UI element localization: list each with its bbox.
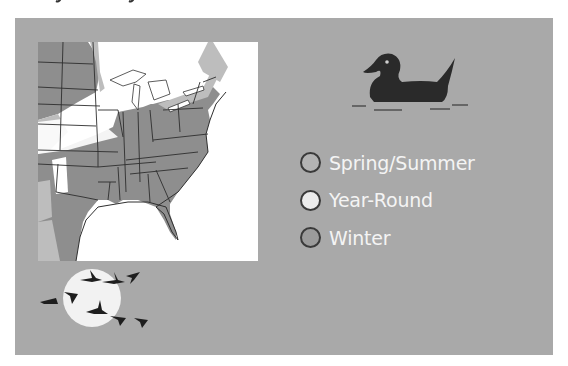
legend-label: Winter — [329, 227, 390, 249]
winter-swatch-icon — [300, 227, 321, 248]
legend-label: Spring/Summer — [329, 152, 475, 174]
range-map — [38, 42, 258, 261]
legend: Spring/Summer Year-Round Winter — [300, 144, 475, 257]
legend-item-year-round: Year-Round — [300, 182, 475, 220]
legend-label: Year-Round — [329, 189, 433, 211]
year-round-swatch-icon — [300, 190, 321, 211]
eastern-us-map — [38, 42, 258, 261]
spring-summer-swatch-icon — [300, 152, 321, 173]
legend-item-spring-summer: Spring/Summer — [300, 144, 475, 182]
cropped-title-fragment — [0, 0, 568, 6]
duck-silhouette-icon — [352, 50, 472, 120]
range-map-panel: Spring/Summer Year-Round Winter — [15, 18, 553, 355]
legend-item-winter: Winter — [300, 219, 475, 257]
geese-over-moon-icon — [30, 260, 170, 340]
